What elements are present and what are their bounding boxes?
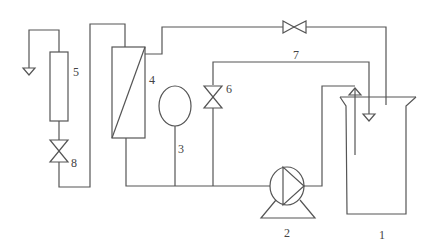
tank-1 [340,97,416,214]
label-7: 7 [293,49,299,61]
valve-6-icon [204,86,222,108]
label-5: 5 [73,66,79,78]
label-6: 6 [226,83,232,95]
top-valve-icon [283,21,306,33]
label-8: 8 [71,157,77,169]
label-3: 3 [178,143,184,155]
valve-8-icon [50,140,68,162]
flow-meter-5 [50,52,68,121]
label-1: 1 [379,229,385,241]
membrane-module-4 [112,47,145,138]
pressure-vessel-3 [159,86,191,126]
pump-2-icon [261,167,315,218]
outlet-arrow-icon [363,114,375,121]
label-2: 2 [284,227,290,239]
process-diagram [0,0,425,247]
label-4: 4 [149,74,155,86]
